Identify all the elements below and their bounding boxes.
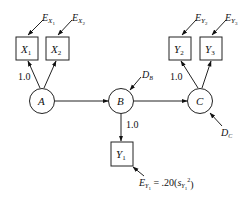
label-ey3: EY3 <box>224 12 238 26</box>
arrow-ey2 <box>182 20 196 35</box>
loading-a-x1: 1.0 <box>18 71 31 82</box>
box-x2: X2 <box>46 37 69 60</box>
path-diagram: X1 X2 Y2 Y3 Y1 A B C 1.0 1.0 1.0 <box>0 0 251 202</box>
circle-b: B <box>109 89 134 114</box>
loading-c-y2: 1.0 <box>170 71 183 82</box>
label-ex1: EX1 <box>41 12 55 26</box>
arrow-db <box>130 77 141 90</box>
label-ey2: EY2 <box>194 12 208 26</box>
label-dc: DC <box>220 127 233 139</box>
arrow-ex1 <box>28 20 43 35</box>
label-ey1-equation: EY1 = .20(sY12) <box>138 177 194 191</box>
svg-text:B: B <box>117 95 124 107</box>
circle-a: A <box>30 89 55 114</box>
loading-b-y1: 1.0 <box>126 119 139 130</box>
path-a-x2 <box>44 61 56 88</box>
circle-c: C <box>188 89 213 114</box>
box-y3: Y3 <box>200 37 222 60</box>
path-c-y2 <box>181 61 198 88</box>
label-ex2: EX2 <box>71 12 85 26</box>
label-db: DB <box>141 69 153 81</box>
box-y1: Y1 <box>111 142 133 166</box>
arrow-ex2 <box>58 20 72 35</box>
arrow-dc <box>210 113 222 126</box>
arrow-ey1 <box>133 167 144 176</box>
svg-text:A: A <box>37 95 45 107</box>
box-x1: X1 <box>16 37 38 60</box>
box-y2: Y2 <box>169 37 191 60</box>
path-c-y3 <box>202 61 211 88</box>
arrow-ey3 <box>212 20 226 35</box>
svg-text:C: C <box>196 95 204 107</box>
